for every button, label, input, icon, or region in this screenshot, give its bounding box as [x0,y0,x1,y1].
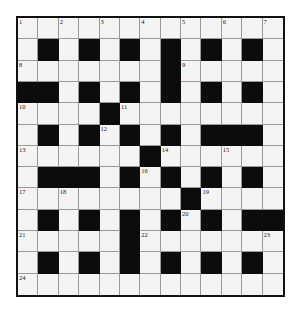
answer-cell[interactable]: 9 [181,61,201,82]
answer-cell[interactable] [140,82,160,103]
answer-cell[interactable] [161,231,181,252]
answer-cell[interactable]: 15 [222,146,242,167]
answer-cell[interactable] [79,274,99,295]
answer-cell[interactable] [222,210,242,231]
answer-cell[interactable] [222,61,242,82]
answer-cell[interactable] [120,61,140,82]
answer-cell[interactable] [100,274,120,295]
answer-cell[interactable] [100,82,120,103]
answer-cell[interactable] [100,61,120,82]
answer-cell[interactable] [222,274,242,295]
answer-cell[interactable] [100,188,120,209]
answer-cell[interactable]: 21 [18,231,38,252]
answer-cell[interactable]: 12 [100,125,120,146]
answer-cell[interactable] [100,252,120,273]
answer-cell[interactable] [161,274,181,295]
answer-cell[interactable] [79,61,99,82]
answer-cell[interactable] [263,61,283,82]
answer-cell[interactable] [181,39,201,60]
answer-cell[interactable] [59,103,79,124]
answer-cell[interactable]: 16 [140,167,160,188]
answer-cell[interactable] [242,18,262,39]
answer-cell[interactable] [222,39,242,60]
answer-cell[interactable] [263,188,283,209]
answer-cell[interactable]: 2 [59,18,79,39]
answer-cell[interactable] [140,252,160,273]
answer-cell[interactable] [140,103,160,124]
answer-cell[interactable] [222,252,242,273]
answer-cell[interactable] [38,231,58,252]
answer-cell[interactable] [140,274,160,295]
answer-cell[interactable] [222,167,242,188]
answer-cell[interactable] [263,274,283,295]
answer-cell[interactable]: 1 [18,18,38,39]
answer-cell[interactable]: 17 [18,188,38,209]
answer-cell[interactable] [263,252,283,273]
answer-cell[interactable] [201,274,221,295]
answer-cell[interactable]: 4 [140,18,160,39]
answer-cell[interactable] [38,61,58,82]
answer-cell[interactable] [38,18,58,39]
answer-cell[interactable]: 14 [161,146,181,167]
answer-cell[interactable] [242,188,262,209]
answer-cell[interactable] [18,252,38,273]
answer-cell[interactable] [120,188,140,209]
answer-cell[interactable] [161,103,181,124]
answer-cell[interactable] [38,274,58,295]
answer-cell[interactable] [181,231,201,252]
answer-cell[interactable]: 8 [18,61,38,82]
answer-cell[interactable]: 23 [263,231,283,252]
answer-cell[interactable] [140,188,160,209]
answer-cell[interactable] [100,167,120,188]
answer-cell[interactable] [181,252,201,273]
answer-cell[interactable] [120,274,140,295]
answer-cell[interactable] [38,103,58,124]
answer-cell[interactable]: 13 [18,146,38,167]
answer-cell[interactable] [222,103,242,124]
answer-cell[interactable] [263,103,283,124]
answer-cell[interactable] [201,61,221,82]
answer-cell[interactable] [181,125,201,146]
answer-cell[interactable] [263,146,283,167]
answer-cell[interactable] [59,274,79,295]
answer-cell[interactable] [79,188,99,209]
answer-cell[interactable] [242,231,262,252]
answer-cell[interactable]: 18 [59,188,79,209]
answer-cell[interactable] [263,125,283,146]
answer-cell[interactable] [140,125,160,146]
answer-cell[interactable] [79,18,99,39]
answer-cell[interactable] [263,82,283,103]
answer-cell[interactable]: 5 [181,18,201,39]
answer-cell[interactable]: 10 [18,103,38,124]
answer-cell[interactable] [140,210,160,231]
answer-cell[interactable] [18,39,38,60]
answer-cell[interactable] [201,146,221,167]
answer-cell[interactable] [100,146,120,167]
answer-cell[interactable] [59,125,79,146]
answer-cell[interactable] [59,39,79,60]
answer-cell[interactable] [201,103,221,124]
answer-cell[interactable] [181,146,201,167]
answer-cell[interactable] [222,231,242,252]
answer-cell[interactable] [100,39,120,60]
answer-cell[interactable] [222,188,242,209]
answer-cell[interactable] [59,231,79,252]
answer-cell[interactable] [161,188,181,209]
answer-cell[interactable]: 7 [263,18,283,39]
answer-cell[interactable] [201,231,221,252]
answer-cell[interactable] [79,146,99,167]
answer-cell[interactable] [181,274,201,295]
answer-cell[interactable]: 11 [120,103,140,124]
answer-cell[interactable]: 20 [181,210,201,231]
answer-cell[interactable]: 22 [140,231,160,252]
answer-cell[interactable] [100,231,120,252]
answer-cell[interactable] [181,103,201,124]
answer-cell[interactable] [120,18,140,39]
answer-cell[interactable] [140,39,160,60]
answer-cell[interactable] [263,39,283,60]
answer-cell[interactable] [38,146,58,167]
answer-cell[interactable] [201,18,221,39]
answer-cell[interactable] [18,167,38,188]
answer-cell[interactable] [100,210,120,231]
answer-cell[interactable]: 24 [18,274,38,295]
